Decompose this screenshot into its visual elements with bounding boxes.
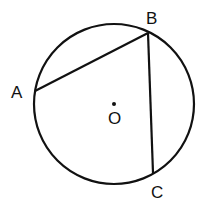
chord-bc [148, 33, 153, 173]
label-c: C [151, 183, 163, 202]
label-b: B [146, 9, 157, 28]
chord-ab [35, 33, 148, 91]
label-o: O [108, 109, 121, 128]
circle-diagram: A B C O [0, 0, 203, 210]
center-point-o [112, 102, 116, 106]
label-a: A [11, 83, 23, 102]
